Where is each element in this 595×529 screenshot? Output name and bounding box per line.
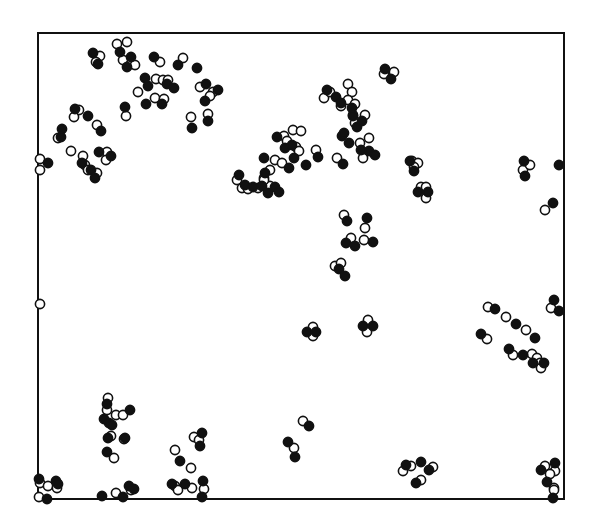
filled-bead [287, 140, 296, 149]
filled-bead [490, 304, 499, 313]
filled-bead [424, 465, 433, 474]
filled-bead [167, 479, 176, 488]
filled-bead [43, 158, 52, 167]
filled-bead [120, 102, 129, 111]
filled-bead [120, 433, 129, 442]
filled-bead [548, 493, 557, 502]
open-bead [186, 112, 195, 121]
filled-bead [302, 327, 311, 336]
open-bead [359, 235, 368, 244]
filled-bead [180, 479, 189, 488]
filled-bead [122, 62, 131, 71]
filled-bead [143, 81, 152, 90]
filled-bead [70, 104, 79, 113]
filled-bead [413, 187, 422, 196]
open-bead [121, 111, 130, 120]
filled-bead [370, 150, 379, 159]
filled-bead [107, 420, 116, 429]
filled-bead [368, 321, 377, 330]
filled-bead [539, 358, 548, 367]
filled-bead [195, 441, 204, 450]
open-bead [66, 146, 75, 155]
bead-markers [34, 37, 563, 503]
filled-bead [213, 85, 222, 94]
filled-bead [157, 99, 166, 108]
filled-bead [201, 79, 210, 88]
open-bead [501, 312, 510, 321]
filled-bead [234, 170, 243, 179]
filled-bead [290, 452, 299, 461]
filled-bead [175, 456, 184, 465]
open-bead [35, 299, 44, 308]
filled-bead [94, 147, 103, 156]
open-bead [170, 445, 179, 454]
filled-bead [197, 428, 206, 437]
filled-bead [304, 421, 313, 430]
filled-bead [504, 344, 513, 353]
open-bead [35, 165, 44, 174]
filled-bead [416, 457, 425, 466]
filled-bead [344, 138, 353, 147]
filled-bead [97, 491, 106, 500]
filled-bead [53, 479, 62, 488]
filled-bead [536, 465, 545, 474]
filled-bead [115, 47, 124, 56]
filled-bead [260, 168, 269, 177]
filled-bead [173, 60, 182, 69]
filled-bead [141, 99, 150, 108]
filled-bead [548, 198, 557, 207]
filled-bead [340, 271, 349, 280]
filled-bead [83, 111, 92, 120]
filled-bead [90, 173, 99, 182]
filled-bead [192, 63, 201, 72]
filled-bead [405, 156, 414, 165]
filled-bead [96, 126, 105, 135]
filled-bead [102, 447, 111, 456]
filled-bead [350, 241, 359, 250]
open-bead [540, 205, 549, 214]
filled-bead [357, 116, 366, 125]
filled-bead [289, 153, 298, 162]
filled-bead [200, 96, 209, 105]
filled-bead [342, 216, 351, 225]
filled-bead [272, 132, 281, 141]
filled-bead [187, 123, 196, 132]
filled-bead [126, 52, 135, 61]
filled-bead [284, 163, 293, 172]
filled-bead [386, 74, 395, 83]
filled-bead [56, 132, 65, 141]
filled-bead [301, 160, 310, 169]
filled-bead [203, 116, 212, 125]
filled-bead [197, 492, 206, 501]
filled-bead [106, 151, 115, 160]
filled-bead [401, 460, 410, 469]
open-bead [364, 133, 373, 142]
filled-bead [93, 59, 102, 68]
open-bead [296, 126, 305, 135]
filled-bead [103, 433, 112, 442]
filled-bead [336, 98, 345, 107]
filled-bead [198, 476, 207, 485]
filled-bead [518, 350, 527, 359]
filled-bead [411, 478, 420, 487]
filled-bead [511, 319, 520, 328]
filled-bead [102, 399, 111, 408]
filled-bead [169, 83, 178, 92]
filled-bead [283, 437, 292, 446]
filled-bead [554, 306, 563, 315]
filled-bead [274, 187, 283, 196]
filled-bead [362, 213, 371, 222]
filled-bead [358, 321, 367, 330]
filled-bead [549, 295, 558, 304]
filled-bead [530, 333, 539, 342]
filled-bead [476, 329, 485, 338]
filled-bead [341, 238, 350, 247]
filled-bead [42, 494, 51, 503]
open-bead [360, 223, 369, 232]
filled-bead [528, 358, 537, 367]
open-bead [122, 37, 131, 46]
filled-bead [520, 171, 529, 180]
filled-bead [550, 458, 559, 467]
filled-bead [519, 156, 528, 165]
open-bead [186, 463, 195, 472]
